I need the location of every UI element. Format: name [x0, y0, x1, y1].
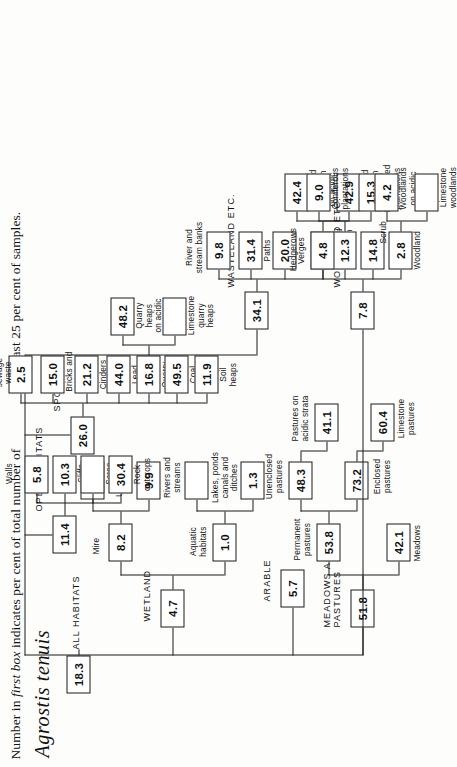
node-mire-label: Mire	[91, 537, 101, 554]
node-hedgerows-value: 4.8	[310, 231, 334, 269]
line-woodland-spine	[322, 278, 400, 279]
line-oh-spine	[36, 502, 120, 503]
line-to-rivers	[196, 499, 197, 511]
line-oh-right-stub	[64, 503, 65, 515]
node-scrub-label: Scrub	[378, 221, 388, 243]
node-quarry-heaps-value: 16.8	[136, 355, 160, 393]
node-woodland-value: 2.8	[388, 231, 412, 269]
node-meadows-value: 42.1	[386, 523, 410, 561]
node-lakes-label: Lakes, ponds canals and ditches	[210, 445, 239, 509]
node-aquatic-label: Aquatic habitats	[188, 515, 207, 567]
node-wh-acidic-value: 42.4	[284, 173, 308, 211]
node-mire-value: 8.2	[108, 523, 132, 561]
line-to-coniferous	[318, 211, 319, 221]
line-to-aquatic	[224, 561, 225, 575]
line-root-spine-down	[78, 654, 362, 655]
line-to-plantations	[344, 269, 345, 279]
node-wetland-label: WETLAND	[142, 569, 152, 621]
line-to-wetland	[172, 627, 173, 655]
line-wd-spine	[386, 220, 426, 221]
node-soil-heaps-value: 11.9	[194, 355, 218, 393]
line-root-upper-rail	[24, 355, 25, 655]
line-to-woodland	[400, 269, 401, 279]
node-limestone-quarry-label: Limestone quarry heaps	[186, 289, 215, 341]
line-wetland-spine	[120, 574, 224, 575]
line-to-walls	[36, 493, 37, 503]
node-rock-outcrops-label: Rock outcrops	[132, 453, 151, 495]
line-to-lakes	[252, 499, 253, 511]
node-lakes-value: 1.3	[240, 461, 264, 499]
node-coniferous-value: 9.0	[306, 173, 330, 211]
node-cinders-value: 21.2	[74, 355, 98, 393]
node-permanent-pastures-label: Permanent pastures	[292, 511, 311, 567]
node-unenclosed-pastures-label: Unenclosed pastures	[264, 447, 283, 505]
node-paths-value: 31.4	[238, 231, 262, 269]
node-spoil-value: 26.0	[70, 416, 94, 454]
line-to-unenclosed-pastures	[300, 499, 301, 511]
node-pastures-acidic-label: Pastures on acidic strata	[290, 387, 309, 449]
line-wasteland-spine	[218, 278, 322, 279]
line-pl-stub	[344, 221, 345, 231]
line-to-broadleaved	[370, 211, 371, 221]
line-to-verges	[284, 269, 285, 279]
line-to-river-banks	[218, 269, 219, 279]
node-plantations-value: 12.3	[332, 231, 356, 269]
line-enc-spine	[356, 450, 382, 451]
node-permanent-pastures-value: 53.8	[316, 523, 340, 561]
line-to-arable	[292, 607, 293, 655]
line-to-limestone-woodlands	[426, 211, 427, 221]
line-wh-stub	[322, 221, 323, 231]
line-wetland-stub	[172, 575, 173, 589]
line-to-manure	[20, 393, 21, 403]
line-to-enclosed-pastures	[356, 499, 357, 511]
node-limestone-woodlands-value	[414, 173, 438, 211]
line-spoil-spine-lower	[176, 402, 206, 403]
node-arable-value: 5.7	[280, 569, 304, 607]
node-open-habitats-value: 11.4	[52, 515, 76, 553]
node-limestone-quarry-value	[162, 297, 186, 335]
node-coniferous-label: Coniferous plantations	[330, 157, 349, 219]
line-root-spine-up	[24, 654, 78, 655]
line-to-scrub	[372, 269, 373, 279]
line-to-lead-mine-heaps	[118, 393, 119, 403]
node-wasteland-value: 34.1	[244, 291, 268, 329]
node-lead-mine-value: 44.0	[106, 355, 130, 393]
line-to-limestone-pastures	[382, 441, 383, 451]
node-soil-heaps-label: Soil heaps	[218, 353, 237, 395]
line-wasteland-stub	[256, 279, 257, 291]
node-wetland-value: 4.7	[160, 589, 184, 627]
line-to-rock-outcrops	[120, 493, 121, 503]
line-to-spoil	[24, 434, 70, 435]
node-pastures-acidic-value: 41.1	[314, 403, 338, 441]
line-mire-spine	[92, 510, 148, 511]
line-to-pastures-acidic	[326, 441, 327, 451]
node-woodland-label: Woodland	[412, 231, 422, 269]
line-to-wasteland	[24, 354, 256, 355]
node-enclosed-pastures-label: Enclosed pastures	[372, 447, 391, 505]
node-limestone-pastures-label: Limestone pastures	[396, 389, 415, 447]
caption-line-left: Number in first box indicates per cent o…	[7, 448, 23, 759]
line-to-mire	[120, 561, 121, 575]
node-river-banks-value: 9.8	[206, 231, 230, 269]
node-walls-value: 5.8	[24, 455, 48, 493]
line-unenc-spine	[300, 450, 326, 451]
node-hedgerows-label: Hedgerows	[288, 221, 298, 277]
node-paths-label: Paths	[262, 231, 272, 269]
node-arable-label: ARABLE	[262, 559, 272, 601]
node-all-habitats-value: 18.3	[66, 655, 90, 693]
node-limestone-woodlands-label: Limestone woodlands	[438, 159, 457, 215]
line-to-hedgerows	[322, 269, 323, 279]
line-woodland-stub	[362, 279, 363, 291]
species-title: Agrostis tenuis	[30, 629, 53, 757]
node-meadows-label: Meadows	[412, 524, 422, 561]
line-to-cinders	[86, 393, 87, 403]
node-coal-mine-value: 49.5	[164, 355, 188, 393]
line-pp-spine	[300, 510, 356, 511]
line-to-limestone-quarry	[174, 335, 175, 345]
node-enclosed-pastures-value: 73.2	[344, 461, 368, 499]
line-to-scree	[92, 493, 93, 503]
line-unenc-stub	[300, 451, 301, 461]
line-to-unshaded-mire	[148, 499, 149, 511]
node-river-banks-label: River and stream banks	[184, 213, 203, 281]
